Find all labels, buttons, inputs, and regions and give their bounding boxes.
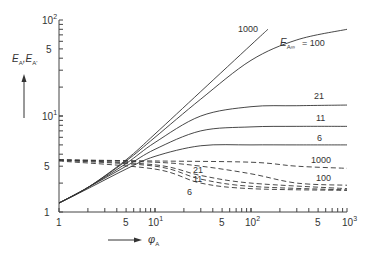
label-dashed-11: 11	[193, 174, 202, 184]
svg-text:= 100: = 100	[302, 38, 325, 48]
y-tick-100: 102	[42, 13, 57, 26]
label-dashed-100: 100	[316, 173, 331, 183]
x-tick-10: 101	[148, 215, 163, 228]
curve-solid-100	[59, 29, 347, 203]
y-tick-10: 101	[42, 109, 57, 122]
x-axis-label: φA	[148, 233, 159, 247]
label-solid-21: 21	[314, 91, 324, 101]
chart: 1 5 101 5 102 1 5 101 5 102 5 103 EA,EA'…	[0, 0, 365, 253]
y-arrow-icon	[22, 74, 27, 118]
y-ticks	[59, 20, 63, 212]
label-e-inf: EA∞ = 100	[280, 37, 325, 50]
x-tick-100: 102	[245, 215, 260, 228]
y-tick-5a: 5	[44, 161, 50, 172]
x-ticks	[59, 208, 347, 212]
label-dashed-6: 6	[187, 187, 192, 197]
svg-text:EA∞: EA∞	[280, 37, 295, 50]
label-solid-1000: 1000	[238, 24, 258, 34]
x-tick-5c: 5	[315, 217, 321, 228]
curve-solid-1000	[59, 29, 268, 203]
label-solid-6: 6	[317, 133, 322, 143]
label-dashed-1000: 1000	[311, 155, 331, 165]
x-tick-5a: 5	[123, 217, 129, 228]
curves	[59, 29, 347, 203]
label-solid-11: 11	[316, 113, 325, 123]
x-tick-1: 1	[56, 217, 62, 228]
curve-solid-21	[59, 105, 347, 203]
y-tick-1: 1	[44, 207, 50, 218]
y-tick-5b: 5	[46, 44, 52, 55]
x-tick-5b: 5	[219, 217, 225, 228]
x-arrow-icon	[108, 238, 142, 243]
y-axis-label: EA,EA'	[12, 53, 37, 66]
x-tick-1000: 103	[342, 215, 357, 228]
